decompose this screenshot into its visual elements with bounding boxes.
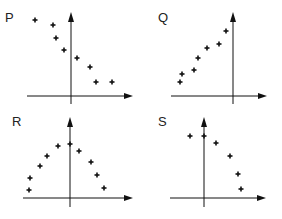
- x-axis-arrow-icon: [124, 195, 133, 201]
- data-point-plus-icon: [54, 36, 59, 41]
- x-axis-arrow-icon: [124, 93, 133, 99]
- data-point-plus-icon: [94, 80, 99, 85]
- data-point-plus-icon: [56, 144, 61, 149]
- panel-label-r: R: [12, 114, 21, 129]
- plot-p: [27, 12, 133, 104]
- y-axis-arrow-icon: [201, 117, 207, 127]
- data-point-plus-icon: [180, 72, 185, 77]
- y-axis-arrow-icon: [68, 12, 74, 22]
- data-point-plus-icon: [205, 46, 210, 51]
- plot-r: [23, 117, 133, 207]
- data-point-plus-icon: [33, 18, 38, 23]
- panel-p: P: [5, 10, 14, 25]
- data-point-plus-icon: [77, 149, 82, 154]
- data-point-plus-icon: [95, 173, 100, 178]
- data-point-plus-icon: [110, 80, 115, 85]
- x-axis-arrow-icon: [257, 195, 266, 201]
- data-point-plus-icon: [102, 186, 107, 191]
- data-point-plus-icon: [75, 56, 80, 61]
- panel-label-p: P: [5, 10, 14, 25]
- x-axis-arrow-icon: [258, 93, 267, 99]
- y-axis-arrow-icon: [230, 12, 236, 22]
- data-point-plus-icon: [192, 68, 197, 73]
- panel-s: S: [158, 114, 167, 129]
- scatter-grid: P Q R S: [0, 0, 282, 219]
- data-point-plus-icon: [27, 188, 32, 193]
- data-point-plus-icon: [224, 29, 229, 34]
- data-point-plus-icon: [236, 172, 241, 177]
- plot-s: [170, 117, 266, 207]
- data-point-plus-icon: [202, 134, 207, 139]
- data-point-plus-icon: [88, 65, 93, 70]
- data-point-plus-icon: [89, 160, 94, 165]
- data-point-plus-icon: [62, 48, 67, 53]
- data-point-plus-icon: [51, 23, 56, 28]
- data-point-plus-icon: [28, 176, 33, 181]
- data-point-plus-icon: [214, 141, 219, 146]
- plot-q: [171, 12, 267, 104]
- y-axis-arrow-icon: [67, 117, 73, 127]
- panel-label-s: S: [158, 114, 167, 129]
- data-point-plus-icon: [239, 187, 244, 192]
- data-point-plus-icon: [196, 56, 201, 61]
- data-point-plus-icon: [217, 42, 222, 47]
- data-point-plus-icon: [228, 154, 233, 159]
- data-point-plus-icon: [45, 154, 50, 159]
- panel-r: R: [12, 114, 21, 129]
- panel-label-q: Q: [158, 10, 168, 25]
- panel-q: Q: [158, 10, 168, 25]
- data-point-plus-icon: [188, 134, 193, 139]
- data-point-plus-icon: [68, 142, 73, 147]
- data-point-plus-icon: [38, 164, 43, 169]
- data-point-plus-icon: [178, 80, 183, 85]
